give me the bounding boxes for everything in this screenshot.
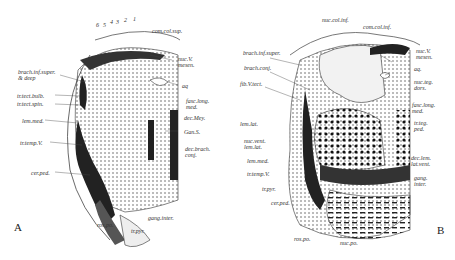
label-lem-med-b: lem.med. <box>247 158 269 164</box>
label-com-col-sup: com.col.sup. <box>152 28 182 34</box>
label-com-col-inf: com.col.inf. <box>363 24 391 30</box>
label-nuc-vent-lem-lat: nuc.vent. lem.lat. <box>244 138 266 150</box>
label-tr-temp-v: tr.temp.V. <box>20 140 42 146</box>
label-tr-temp-v-b: tr.temp.V. <box>247 171 269 177</box>
label-tr-tect-bulb: tr.tect.bulb. <box>17 93 44 99</box>
label-fasc-long-med-b: fasc.long. med. <box>412 102 435 114</box>
label-tr-pyr: tr.pyr. <box>131 228 145 234</box>
label-nuc-teg-dors: nuc.teg. dors. <box>414 79 433 91</box>
label-gang-inter-b: gang. inter. <box>414 175 428 187</box>
label-dec-brach-conj: dec.brach. conj. <box>185 146 210 158</box>
panel-letter-a: A <box>14 221 22 233</box>
layer-5-label: 5 <box>103 22 106 28</box>
label-fib-v-tect: fib.V.tect. <box>240 81 262 87</box>
layer-4-label: 4 <box>110 19 113 25</box>
label-tr-teg-ped: tr.teg. ped. <box>414 120 428 132</box>
label-lem-lat: lem.lat. <box>240 121 258 127</box>
label-brach-inf-super: brach.inf.super. <box>243 50 281 56</box>
label-nuc-po: nuc.po. <box>340 240 358 246</box>
anatomical-figure: 6 5 4 3 2 1 com.col.sup. nuc.V. mesen. a… <box>0 0 455 260</box>
label-nuc-v-mesen: nuc.V. mesen. <box>178 56 195 68</box>
brainstem-section-drawings <box>0 0 455 260</box>
label-cer-ped: cer.ped. <box>31 170 50 176</box>
layer-3-label: 3 <box>116 19 119 25</box>
layer-2-label: 2 <box>124 17 127 23</box>
label-brach-inf-super-deep: brach.inf.super. & deep <box>18 69 56 81</box>
label-aq: aq <box>182 83 188 89</box>
label-dec-lem-lat-vent: dec.lem. lat.vent. <box>411 155 431 167</box>
label-dec-mey: dec.Mey. <box>184 115 205 121</box>
label-nuc-col-inf: nuc.col.inf. <box>322 17 349 23</box>
label-tr-pyr-b: tr.pyr. <box>262 186 276 192</box>
label-lem-med: lem.med. <box>22 118 44 124</box>
label-gang-inter: gang.inter. <box>148 215 174 221</box>
layer-6-label: 6 <box>96 22 99 28</box>
panel-letter-b: B <box>437 224 444 236</box>
label-gan-s: Gan.S. <box>184 129 200 135</box>
label-fasc-long-med: fasc.long. med. <box>186 98 209 110</box>
label-ros-po: ros.po. <box>97 222 113 228</box>
layer-1-label: 1 <box>133 16 136 22</box>
label-aq-b: aq. <box>414 66 422 72</box>
panel-b-drawing <box>289 33 420 240</box>
label-brach-conj: brach.conj. <box>244 65 271 71</box>
label-cer-ped-b: cer.ped. <box>271 200 290 206</box>
label-ros-po-b: ros.po. <box>294 236 310 242</box>
label-nuc-v-mesen-b: nuc.V. mesen. <box>416 48 433 60</box>
label-tr-tect-spin: tr.tect.spin. <box>17 101 44 107</box>
